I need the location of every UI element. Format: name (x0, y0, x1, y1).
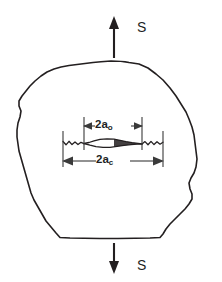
dimension-line-ao (83, 122, 143, 130)
dimension-label-ac: 2ac (96, 154, 113, 166)
internal-flaw (63, 139, 163, 148)
arrow-up-icon (109, 16, 119, 29)
dimension-label-ao-base: 2a (95, 118, 108, 130)
crack-extension-left (63, 141, 84, 145)
stress-label-bottom: S (137, 258, 146, 272)
arrow-down-icon (109, 261, 119, 274)
arrow-right-icon-ac (153, 157, 164, 166)
fracture-diagram-svg (0, 0, 222, 282)
crack-extension-right (142, 141, 163, 144)
dimension-label-ac-base: 2a (96, 153, 109, 165)
stress-label-top: S (137, 20, 146, 34)
dimension-label-ao: 2ao (95, 119, 113, 131)
stress-arrow-down (109, 243, 119, 274)
specimen-body-outline (17, 61, 197, 239)
stress-arrow-up (109, 16, 119, 58)
dimension-label-ao-subscript: o (108, 123, 113, 132)
dimension-label-ac-subscript: c (109, 158, 113, 167)
arrow-left-icon-ac (62, 157, 73, 166)
figure-root: S S 2ao 2ac (0, 0, 222, 282)
